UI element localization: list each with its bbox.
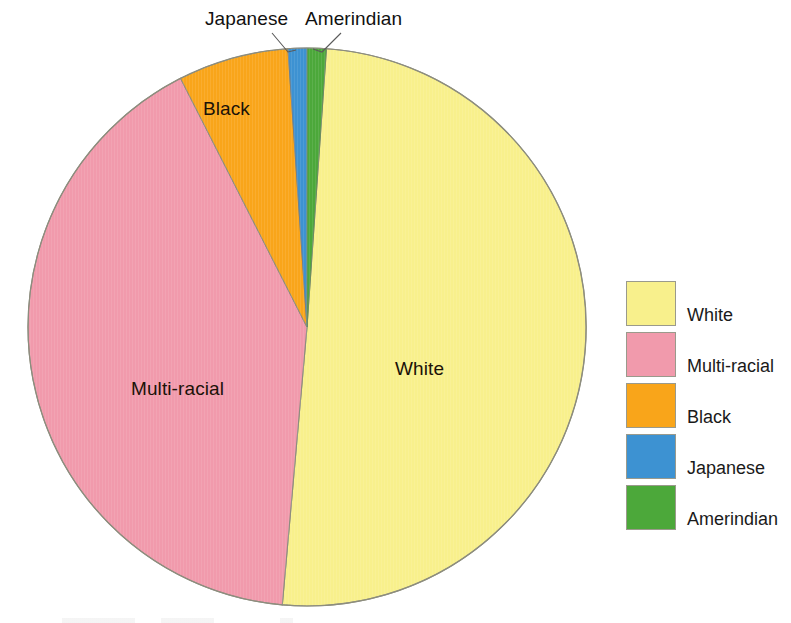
legend-label-multiracial: Multi-racial	[687, 356, 774, 377]
legend-item-white[interactable]: White	[626, 278, 786, 329]
legend-item-japanese[interactable]: Japanese	[626, 431, 786, 482]
legend-item-amerindian[interactable]: Amerindian	[626, 482, 786, 533]
legend-label-japanese: Japanese	[687, 458, 765, 479]
legend-swatch-japanese	[626, 434, 676, 479]
chart-legend: White Multi-racial Black Japanese Amerin…	[626, 278, 786, 533]
legend-swatch-black	[626, 383, 676, 428]
legend-item-multiracial[interactable]: Multi-racial	[626, 329, 786, 380]
callout-label-amerindian: Amerindian	[305, 8, 402, 30]
legend-swatch-amerindian	[626, 485, 676, 530]
legend-swatch-white	[626, 281, 676, 326]
pie-chart-figure: Japanese Amerindian White Black Multi-ra…	[0, 0, 791, 623]
callout-label-japanese: Japanese	[205, 8, 288, 30]
legend-swatch-multiracial	[626, 332, 676, 377]
slice-label-black: Black	[203, 98, 250, 120]
page-bottom-cropped-text	[62, 618, 392, 623]
legend-item-black[interactable]: Black	[626, 380, 786, 431]
legend-label-black: Black	[687, 407, 731, 428]
legend-label-white: White	[687, 305, 733, 326]
pie-texture-overlay	[28, 48, 586, 606]
slice-label-white: White	[395, 358, 444, 380]
legend-label-amerindian: Amerindian	[687, 509, 778, 530]
slice-label-multiracial: Multi-racial	[131, 378, 224, 400]
